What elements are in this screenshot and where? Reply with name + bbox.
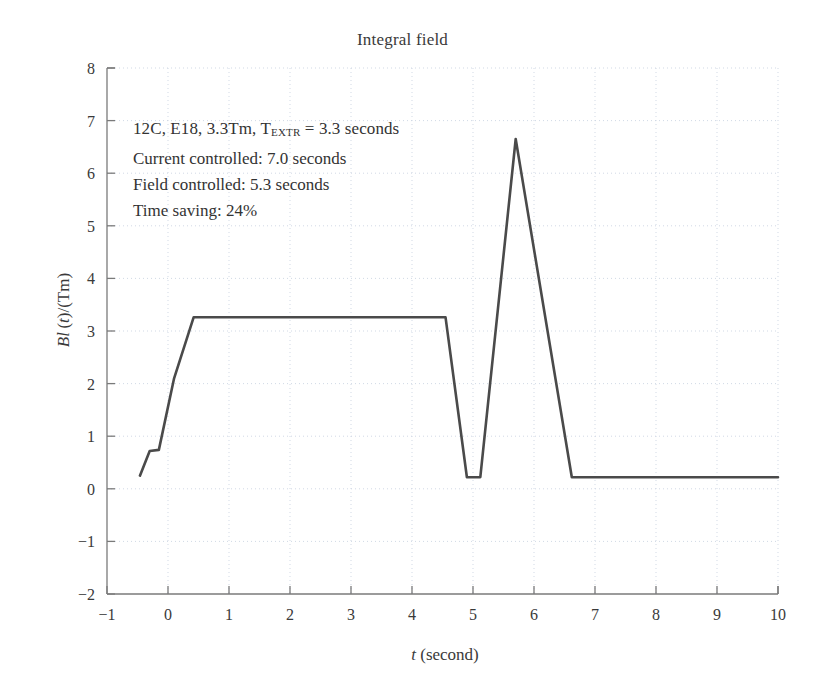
y-tick-label: −1: [78, 533, 95, 550]
y-tick-label: 0: [87, 481, 95, 498]
y-tick-label: 8: [87, 60, 95, 77]
x-tick-label: 9: [713, 606, 721, 623]
y-tick-label: 7: [87, 113, 95, 130]
series-bl-t: [140, 139, 778, 477]
axis-tick-labels: −2−1012345678−1012345678910: [78, 60, 786, 623]
y-tick-label: −2: [78, 586, 95, 603]
x-tick-label: 0: [164, 606, 172, 623]
y-tick-label: 5: [87, 218, 95, 235]
x-tick-label: −1: [98, 606, 115, 623]
y-tick-label: 1: [87, 428, 95, 445]
x-tick-label: 5: [469, 606, 477, 623]
gridlines: [107, 68, 778, 594]
x-tick-label: 8: [652, 606, 660, 623]
x-tick-label: 1: [225, 606, 233, 623]
x-tick-label: 7: [591, 606, 599, 623]
x-tick-label: 6: [530, 606, 538, 623]
y-tick-label: 6: [87, 165, 95, 182]
plot-canvas: −2−1012345678−1012345678910: [0, 0, 825, 689]
chart-figure: Integral field Bl (t)/(Tm) t (second) 12…: [0, 0, 825, 689]
y-tick-label: 4: [87, 270, 95, 287]
x-tick-label: 10: [770, 606, 786, 623]
data-series-line: [140, 139, 778, 477]
x-tick-label: 4: [408, 606, 416, 623]
x-tick-label: 3: [347, 606, 355, 623]
x-tick-label: 2: [286, 606, 294, 623]
y-tick-label: 3: [87, 323, 95, 340]
y-tick-label: 2: [87, 376, 95, 393]
